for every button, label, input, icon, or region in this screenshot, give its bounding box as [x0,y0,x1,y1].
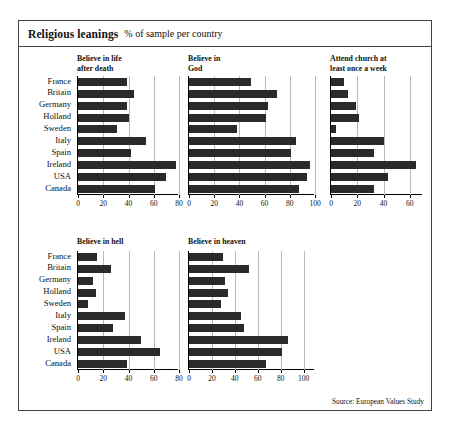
bar [189,265,249,273]
bar [189,336,288,344]
source-note: Source: European Values Study [332,397,424,406]
x-tick-label: 0 [187,374,191,383]
bar [189,300,221,308]
x-axis-line [189,369,314,370]
x-tick-label: 80 [277,374,285,383]
x-tick-label: 40 [231,374,239,383]
x-tick [304,370,305,373]
plot-area-believe-in-heaven: 020406080100 [188,251,314,370]
x-tick [212,370,213,373]
x-tick [235,370,236,373]
panel-title-believe-in-heaven: Believe in heaven [188,237,246,247]
bar [189,360,266,368]
x-tick [258,370,259,373]
bar [189,348,282,356]
bar [189,253,223,261]
x-tick-label: 100 [298,374,309,383]
x-tick [189,370,190,373]
chart-figure: Religious leanings % of sample per count… [18,20,432,411]
gridline [304,251,305,370]
panel-believe-in-heaven: Believe in heaven020406080100 [19,21,431,410]
bar [189,324,244,332]
x-tick-label: 20 [208,374,216,383]
bar [189,312,241,320]
x-tick [281,370,282,373]
bar [189,289,228,297]
bar [189,277,225,285]
x-tick-label: 60 [254,374,262,383]
